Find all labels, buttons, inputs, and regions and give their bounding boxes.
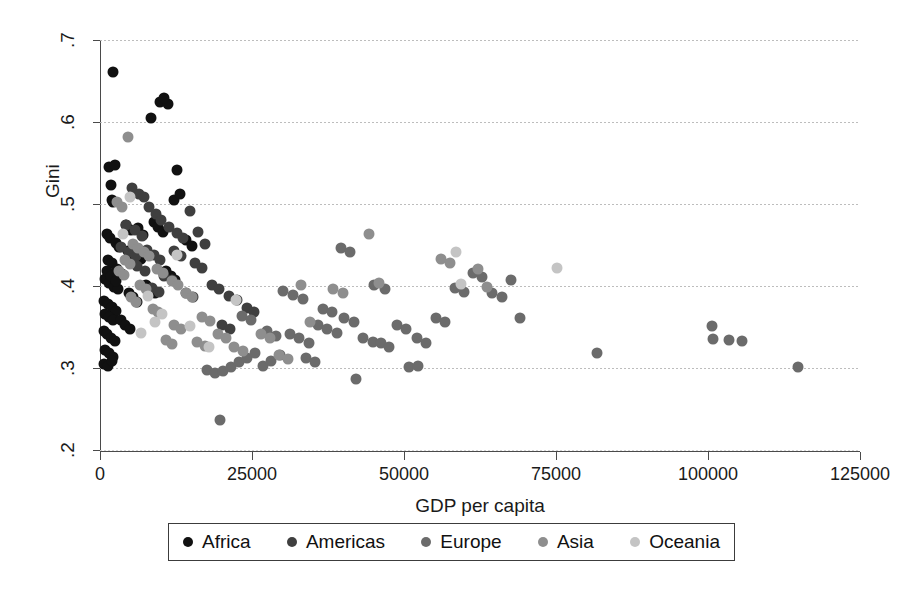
legend-label: Oceania	[649, 531, 720, 553]
data-point	[199, 239, 210, 250]
data-point	[445, 258, 456, 269]
data-point	[116, 202, 127, 213]
y-tick-mark	[93, 368, 100, 369]
x-tick-label: 100000	[678, 464, 738, 485]
data-point	[401, 324, 412, 335]
legend-item-europe[interactable]: Europe	[421, 531, 501, 553]
data-point	[350, 374, 361, 385]
data-point	[515, 312, 526, 323]
y-tick-label: .4	[57, 266, 79, 306]
legend-label: Africa	[202, 531, 251, 553]
data-point	[139, 266, 150, 277]
data-point	[451, 247, 462, 258]
y-tick-mark	[93, 450, 100, 451]
data-point	[792, 362, 803, 373]
data-point	[109, 159, 120, 170]
data-point	[174, 189, 185, 200]
y-axis-label: Gini	[42, 164, 64, 198]
data-point	[122, 131, 133, 142]
gridline-y	[100, 122, 860, 123]
data-point	[187, 292, 198, 303]
data-point	[296, 280, 307, 291]
data-point	[150, 317, 161, 328]
data-point	[105, 180, 116, 191]
data-point	[205, 316, 216, 327]
data-point	[412, 360, 423, 371]
x-axis-line	[100, 451, 860, 452]
legend-marker-icon	[421, 537, 431, 547]
data-point	[363, 228, 374, 239]
x-tick-label: 75000	[531, 464, 581, 485]
legend-marker-icon	[630, 537, 640, 547]
data-point	[192, 226, 203, 237]
data-point	[153, 286, 164, 297]
data-point	[305, 317, 316, 328]
legend-item-africa[interactable]: Africa	[183, 531, 251, 553]
data-point	[337, 288, 348, 299]
x-tick-label: 125000	[830, 464, 890, 485]
scatter-plot-figure: .2.3.4.5.6.7 025000500007500010000012500…	[0, 0, 900, 593]
gridline-y	[100, 450, 860, 451]
data-point	[231, 294, 242, 305]
gridline-y	[100, 40, 860, 41]
y-tick-label: .2	[57, 430, 79, 470]
y-tick-mark	[93, 286, 100, 287]
data-point	[496, 291, 507, 302]
x-tick-mark	[860, 452, 861, 460]
data-point	[384, 341, 395, 352]
x-tick-mark	[708, 452, 709, 460]
data-point	[144, 251, 155, 262]
data-point	[125, 324, 136, 335]
x-axis-label: GDP per capita	[100, 495, 860, 517]
data-point	[456, 279, 467, 290]
data-point	[298, 294, 309, 305]
legend-marker-icon	[287, 537, 297, 547]
data-point	[215, 415, 226, 426]
data-point	[136, 327, 147, 338]
data-point	[482, 281, 493, 292]
data-point	[118, 228, 129, 239]
data-point	[107, 66, 118, 77]
data-point	[184, 321, 195, 332]
gridline-y	[100, 204, 860, 205]
data-point	[143, 290, 154, 301]
data-point	[166, 339, 177, 350]
data-point	[345, 247, 356, 258]
data-point	[237, 345, 248, 356]
legend-label: Europe	[440, 531, 501, 553]
data-point	[130, 296, 141, 307]
data-point	[303, 337, 314, 348]
data-point	[278, 285, 289, 296]
data-point	[331, 327, 342, 338]
data-point	[310, 357, 321, 368]
data-point	[592, 348, 603, 359]
x-tick-mark	[404, 452, 405, 460]
data-point	[171, 165, 182, 176]
data-point	[107, 355, 118, 366]
legend-item-americas[interactable]: Americas	[287, 531, 385, 553]
data-point	[250, 348, 261, 359]
data-point	[326, 307, 337, 318]
legend-item-asia[interactable]: Asia	[538, 531, 594, 553]
data-point	[552, 262, 563, 273]
data-point	[197, 262, 208, 273]
data-point	[282, 353, 293, 364]
x-tick-label: 25000	[227, 464, 277, 485]
legend-marker-icon	[183, 537, 193, 547]
data-point	[184, 206, 195, 217]
data-point	[706, 321, 717, 332]
x-tick-label: 0	[95, 464, 105, 485]
legend-item-oceania[interactable]: Oceania	[630, 531, 720, 553]
legend: AfricaAmericasEuropeAsiaOceania	[168, 523, 735, 561]
data-point	[159, 93, 170, 104]
legend-label: Asia	[557, 531, 594, 553]
y-tick-label: .6	[57, 102, 79, 142]
data-point	[109, 335, 120, 346]
data-point	[420, 337, 431, 348]
x-tick-mark	[252, 452, 253, 460]
plot-area	[100, 40, 860, 450]
data-point	[119, 270, 130, 281]
data-point	[203, 341, 214, 352]
x-tick-mark	[556, 452, 557, 460]
data-point	[264, 333, 275, 344]
